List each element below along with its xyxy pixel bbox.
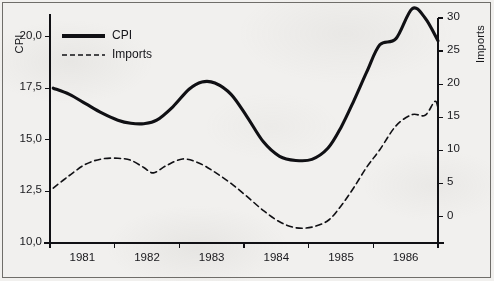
bottom-axis-tick-label: 1981 <box>57 251 107 263</box>
legend-marks-group <box>62 36 105 55</box>
right-axis-tick-label: 30 <box>447 10 473 22</box>
left-axis-tick-label: 20,0 <box>6 29 42 41</box>
left-axis-tick-label: 10,0 <box>6 235 42 247</box>
right-axis-tick-label: 10 <box>447 142 473 154</box>
left-axis-tick-label: 12,5 <box>6 183 42 195</box>
right-axis-tick-label: 20 <box>447 76 473 88</box>
legend-label-cpi: CPI <box>112 28 132 42</box>
chart-plot-area <box>0 0 494 281</box>
axis-lines-group <box>44 14 444 248</box>
series-line-imports <box>53 101 438 228</box>
bottom-axis-tick-label: 1984 <box>251 251 301 263</box>
right-axis-title: Imports <box>474 14 486 74</box>
right-axis-tick-label: 5 <box>447 175 473 187</box>
left-axis-tick-label: 15,0 <box>6 132 42 144</box>
bottom-axis-tick-label: 1986 <box>381 251 431 263</box>
right-axis-tick-label: 0 <box>447 209 473 221</box>
legend-label-imports: Imports <box>112 47 152 61</box>
chart-figure: CPI Imports CPI Imports 10,012,515,017,5… <box>0 0 494 281</box>
bottom-axis-tick-label: 1983 <box>187 251 237 263</box>
bottom-axis-tick-label: 1982 <box>122 251 172 263</box>
right-axis-tick-label: 25 <box>447 43 473 55</box>
data-series-group <box>53 8 438 228</box>
left-axis-tick-label: 17,5 <box>6 80 42 92</box>
series-line-cpi <box>53 8 438 161</box>
right-axis-tick-label: 15 <box>447 109 473 121</box>
bottom-axis-tick-label: 1985 <box>316 251 366 263</box>
